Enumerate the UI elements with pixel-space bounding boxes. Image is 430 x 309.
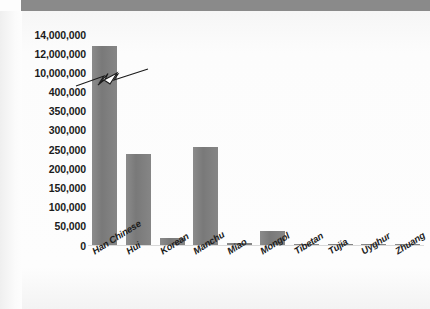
y-axis: 14,000,00012,000,00010,000,000400,000350… — [8, 35, 86, 246]
page-canvas: 14,000,00012,000,00010,000,000400,000350… — [0, 0, 430, 309]
y-axis-tick-label: 300,000 — [8, 125, 86, 136]
y-axis-tick-label: 0 — [8, 241, 86, 252]
y-axis-tick-label: 50,000 — [8, 221, 86, 232]
y-axis-tick-label: 150,000 — [8, 183, 86, 194]
x-axis: Han ChineseHuiKoreanManchuMiaoMongolTibe… — [88, 247, 428, 309]
y-axis-tick-label: 400,000 — [8, 87, 86, 98]
y-axis-tick-label: 100,000 — [8, 202, 86, 213]
y-axis-tick-label: 12,000,000 — [8, 49, 86, 60]
y-axis-tick-label: 200,000 — [8, 164, 86, 175]
bar-chart: 14,000,00012,000,00010,000,000400,000350… — [0, 11, 430, 309]
y-axis-tick-label: 350,000 — [8, 106, 86, 117]
y-axis-tick-label: 14,000,000 — [8, 30, 86, 41]
y-axis-tick-label: 250,000 — [8, 145, 86, 156]
header-bar — [21, 0, 430, 11]
bar-series — [88, 35, 424, 246]
y-axis-tick-label: 10,000,000 — [8, 68, 86, 79]
bar-han-chinese[interactable] — [92, 46, 117, 246]
